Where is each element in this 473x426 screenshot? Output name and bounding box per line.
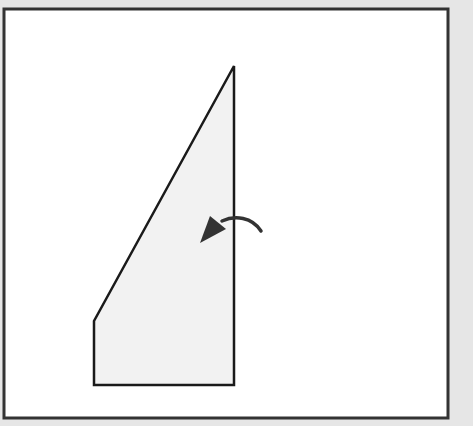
diagram-canvas xyxy=(0,0,473,426)
diagram-svg xyxy=(0,0,473,426)
